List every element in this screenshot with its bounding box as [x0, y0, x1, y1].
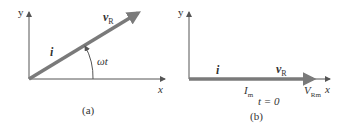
y-axis-label-a: y	[18, 6, 24, 18]
voltage-label-sub: R	[108, 17, 113, 26]
current-amplitude-sub: m	[248, 91, 253, 99]
current-label-b: i	[216, 63, 219, 78]
voltage-amplitude-sub: Rm	[311, 91, 321, 99]
voltage-amplitude-label: VRm	[304, 84, 321, 99]
caption-a: (a)	[82, 104, 94, 116]
voltage-label-a: vR	[103, 10, 114, 26]
rotating-phasor	[29, 13, 138, 79]
angle-label: ωt	[97, 55, 108, 67]
caption-b: (b)	[250, 110, 263, 122]
current-amplitude-label: Im	[244, 84, 253, 99]
x-axis-label-b: x	[325, 83, 330, 95]
time-label: t = 0	[258, 95, 279, 107]
panel-b	[189, 12, 330, 79]
angle-arc	[85, 46, 93, 79]
voltage-amplitude-main: V	[304, 84, 311, 96]
voltage-label-b: vR	[276, 62, 287, 78]
phasor-diagram	[0, 0, 347, 129]
voltage-label-sub: R	[281, 69, 286, 78]
y-axis-label-b: y	[178, 6, 184, 18]
x-axis-label-a: x	[158, 83, 163, 95]
current-label-a: i	[50, 45, 53, 60]
